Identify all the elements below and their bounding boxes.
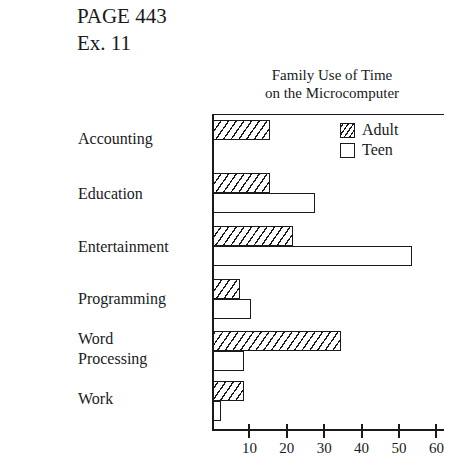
legend-label-adult: Adult [362,120,398,140]
category-label-line: Processing [78,349,147,369]
category-label-line: Work [78,389,113,409]
x-tick [286,424,288,438]
x-tick-label: 40 [347,439,377,457]
bar-teen-programming [214,299,251,319]
bar-adult-programming [214,279,240,299]
hatched-swatch-icon [340,123,355,138]
page-number: PAGE 443 [77,3,167,30]
bar-adult-accounting [214,120,270,140]
x-tick [361,424,363,438]
bar-teen-work [214,401,221,421]
bar-adult-work [214,381,244,401]
chart-title: Family Use of Time on the Microcomputer [212,66,449,102]
open-swatch-icon [340,143,355,158]
x-tick-label: 60 [421,439,449,457]
category-label-line: Education [78,184,143,204]
page-header: PAGE 443 Ex. 11 [77,3,167,57]
exercise-number: Ex. 11 [77,30,167,57]
category-label-line: Accounting [78,129,153,149]
legend-item-teen: Teen [340,140,398,160]
category-label-work: Work [78,389,113,409]
category-label-line: Programming [78,289,166,309]
x-tick [248,424,250,438]
category-label-word-processing: WordProcessing [78,329,147,369]
x-tick [398,424,400,438]
bar-teen-education [214,193,315,213]
bar-teen-word-processing [214,351,244,371]
category-label-education: Education [78,184,143,204]
bar-teen-entertainment [214,246,412,266]
plot-area [212,114,444,431]
legend-item-adult: Adult [340,120,398,140]
x-tick-label: 20 [272,439,302,457]
bar-adult-word-processing [214,331,341,351]
category-label-accounting: Accounting [78,129,153,149]
category-label-line: Entertainment [78,237,169,257]
chart-title-line-1: Family Use of Time [212,66,449,84]
legend-label-teen: Teen [362,140,393,160]
chart-title-line-2: on the Microcomputer [212,84,449,102]
bar-adult-entertainment [214,226,293,246]
x-tick-label: 50 [384,439,414,457]
x-tick [323,424,325,438]
x-tick [435,424,437,438]
category-label-line: Word [78,329,147,349]
category-label-entertainment: Entertainment [78,237,169,257]
x-tick-label: 30 [309,439,339,457]
x-tick-label: 10 [234,439,264,457]
category-label-programming: Programming [78,289,166,309]
bar-adult-education [214,173,270,193]
legend: Adult Teen [340,120,398,160]
